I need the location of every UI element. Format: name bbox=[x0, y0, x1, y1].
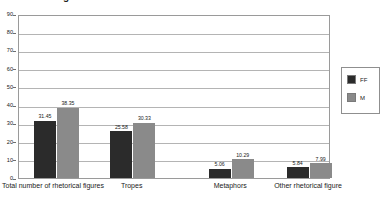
bar-group: 31.4538.35 bbox=[34, 16, 79, 178]
category-label: Metaphors bbox=[214, 182, 247, 190]
chart-legend: FFM bbox=[341, 67, 380, 114]
category-label: Tropes bbox=[121, 182, 143, 190]
y-tick-mark bbox=[13, 160, 16, 161]
bar-chart-figure: Rhetorical figures 0102030405060708090 3… bbox=[0, 0, 386, 199]
y-axis: 0102030405060708090 bbox=[0, 15, 16, 179]
bar-group: 25.5830.33 bbox=[110, 16, 155, 178]
bar-value-label: 30.33 bbox=[138, 116, 151, 121]
legend-swatch-icon bbox=[347, 75, 356, 84]
legend-label: M bbox=[360, 95, 365, 101]
bar-value-label: 25.58 bbox=[115, 125, 128, 130]
y-tick-mark bbox=[13, 106, 16, 107]
bar-value-label: 5.06 bbox=[215, 162, 225, 167]
bar-ff-0 bbox=[34, 121, 56, 178]
x-axis-category-labels: Total number of rhetorical figuresTropes… bbox=[18, 182, 330, 196]
y-tick-mark bbox=[13, 51, 16, 52]
bar-ff-3 bbox=[287, 167, 309, 178]
y-tick-mark bbox=[13, 69, 16, 70]
category-label: Total number of rhetorical figures bbox=[2, 182, 104, 190]
category-label: Other rhetorical figure bbox=[274, 182, 342, 190]
bar-value-label: 31.45 bbox=[38, 114, 51, 119]
bar-m-0 bbox=[57, 108, 79, 178]
bar-group: 5.847.99 bbox=[287, 16, 332, 178]
bar-m-1 bbox=[133, 123, 155, 178]
bar-ff-2 bbox=[209, 169, 231, 178]
bar-value-label: 7.99 bbox=[316, 157, 326, 162]
chart-title: Rhetorical figures bbox=[4, 0, 91, 2]
bar-m-3 bbox=[310, 163, 332, 178]
bar-ff-1 bbox=[110, 131, 132, 178]
y-tick-mark bbox=[13, 142, 16, 143]
legend-label: FF bbox=[360, 77, 367, 83]
bar-value-label: 5.84 bbox=[293, 161, 303, 166]
y-tick-mark bbox=[13, 179, 16, 180]
bar-value-label: 10.29 bbox=[236, 153, 249, 158]
legend-entry-ff[interactable]: FF bbox=[347, 75, 367, 84]
bar-value-label: 38.35 bbox=[61, 101, 74, 106]
bar-group: 5.0610.29 bbox=[209, 16, 254, 178]
legend-swatch-icon bbox=[347, 93, 356, 102]
y-tick-mark bbox=[13, 124, 16, 125]
plot-area: 31.4538.3525.5830.335.0610.295.847.99 bbox=[18, 15, 330, 179]
y-tick-mark bbox=[13, 15, 16, 16]
bar-m-2 bbox=[232, 159, 254, 178]
y-tick-mark bbox=[13, 33, 16, 34]
y-tick-mark bbox=[13, 87, 16, 88]
legend-entry-m[interactable]: M bbox=[347, 93, 365, 102]
